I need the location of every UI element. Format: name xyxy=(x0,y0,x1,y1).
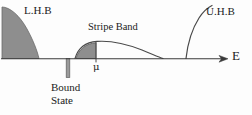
energy-axis-label: E xyxy=(232,49,240,62)
stripe-band-label: Stripe Band xyxy=(88,22,138,33)
lower-hubbard-band-label: L.H.B xyxy=(24,5,52,16)
upper-hubbard-band-label: U.H.B xyxy=(206,6,235,17)
diagram-canvas xyxy=(0,0,252,115)
density-of-states-figure: L.H.B U.H.B Stripe Band μ BoundState E xyxy=(0,0,252,115)
bound-state-label: BoundState xyxy=(51,82,80,106)
bound-state-label-line1: Bound xyxy=(51,81,80,93)
bound-state-bar xyxy=(66,59,70,78)
chemical-potential-label: μ xyxy=(93,62,100,72)
bound-state-label-line2: State xyxy=(51,95,80,106)
